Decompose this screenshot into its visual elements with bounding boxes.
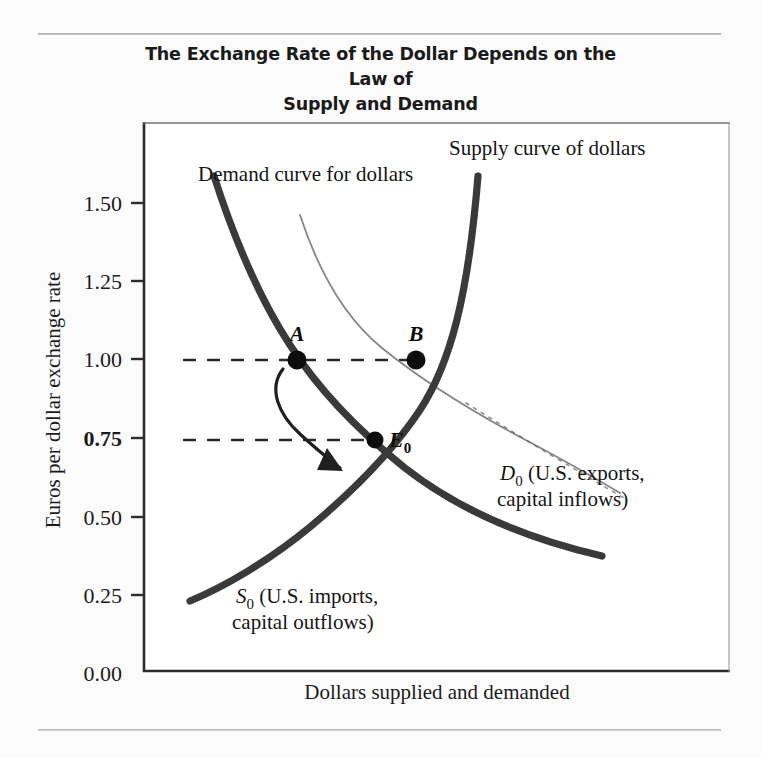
d0-symbol: D: [499, 461, 515, 485]
s0-symbol: S: [236, 584, 247, 608]
y-tick-label-1-50: 1.50: [84, 191, 123, 216]
data-point-a: [288, 351, 307, 370]
y-axis-ticks: [131, 203, 144, 595]
data-point-b: [407, 351, 426, 370]
e0-subscript: 0: [404, 440, 412, 456]
demand-curve-annotation: Demand curve for dollars: [198, 162, 413, 186]
s0-rest: (U.S. imports,: [254, 584, 378, 608]
demand-series-label-line-2: capital inflows): [497, 487, 628, 511]
supply-series-label-line-1: S0 (U.S. imports,: [236, 584, 378, 612]
supply-curve-annotation: Supply curve of dollars: [449, 136, 646, 160]
plot-area-background: [143, 122, 730, 672]
data-point-label-b: B: [408, 321, 424, 346]
chart-canvas: 1.50 1.25 1.00 0.75 0.50 0.25 0.00 Euros…: [0, 0, 761, 758]
y-tick-label-1-25: 1.25: [84, 269, 123, 294]
data-point-e0: [367, 432, 384, 449]
e0-symbol: E: [388, 427, 404, 452]
y-axis-title: Euros per dollar exchange rate: [41, 272, 65, 529]
figure-container: The Exchange Rate of the Dollar Depends …: [0, 0, 761, 758]
y-tick-label-0-00: 0.00: [84, 661, 123, 686]
y-tick-label-0-25: 0.25: [84, 583, 123, 608]
data-point-label-a: A: [288, 321, 305, 346]
d0-rest: (U.S. exports,: [523, 461, 645, 485]
y-tick-label-0-75: 0.75: [84, 426, 123, 451]
y-tick-label-0-50: 0.50: [84, 505, 123, 530]
y-tick-label-1-00: 1.00: [84, 347, 123, 372]
x-axis-title: Dollars supplied and demanded: [304, 680, 570, 704]
supply-series-label-line-2: capital outflows): [232, 610, 374, 634]
